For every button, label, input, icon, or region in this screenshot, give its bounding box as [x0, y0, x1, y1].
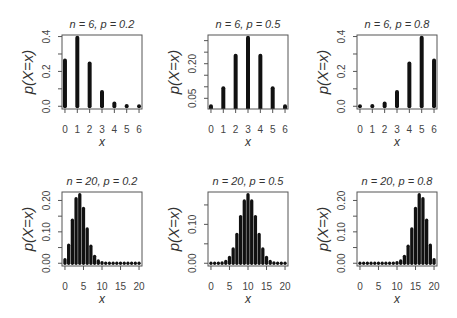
panel-title: n = 20, p = 0.2: [67, 175, 138, 187]
x-tick-label: 20: [428, 281, 440, 292]
y-tick-label: 0.4: [41, 29, 52, 43]
x-tick-label: 5: [227, 281, 233, 292]
x-tick-label: 10: [391, 281, 403, 292]
x-tick-label: 3: [394, 124, 400, 135]
x-axis-label: x: [393, 135, 401, 149]
axes: 051015200.000.10: [187, 205, 292, 292]
x-tick-label: 15: [261, 281, 273, 292]
panel-n20-p0.2: n = 20, p = 0.2 p(X=x) x 051015200.000.1…: [19, 175, 146, 306]
panel-n6-p0.8: n = 6, p = 0.8 p(X=x) x 01234560.00.20.4: [314, 18, 438, 149]
x-tick-label: 0: [208, 124, 214, 135]
x-tick-label: 1: [221, 124, 227, 135]
x-tick-label: 0: [357, 281, 363, 292]
y-tick-label: 0.00: [41, 253, 52, 273]
y-axis-label: p(X=x): [165, 50, 182, 96]
y-tick-label: 0.20: [336, 190, 347, 210]
x-tick-label: 4: [258, 124, 264, 135]
x-tick-label: 20: [279, 281, 291, 292]
bar-series: [360, 195, 434, 264]
x-tick-label: 10: [242, 281, 254, 292]
x-tick-label: 5: [419, 124, 425, 135]
y-tick-label: 0.10: [336, 222, 347, 242]
bar-series: [211, 195, 285, 264]
x-tick-label: 5: [81, 281, 87, 292]
x-tick-label: 20: [133, 281, 145, 292]
x-tick-label: 5: [270, 124, 276, 135]
x-tick-label: 5: [376, 281, 382, 292]
panel-n6-p0.2: n = 6, p = 0.2 p(X=x) x 01234560.00.20.4: [19, 18, 143, 149]
x-axis-label: x: [98, 292, 106, 306]
y-tick-label: 0.2: [336, 64, 347, 78]
binomial-figure: n = 6, p = 0.2 p(X=x) x 01234560.00.20.4…: [0, 0, 457, 318]
x-tick-label: 1: [75, 124, 81, 135]
axes: 051015200.000.100.20: [41, 190, 146, 292]
x-tick-label: 1: [370, 124, 376, 135]
x-tick-label: 2: [233, 124, 239, 135]
x-tick-label: 6: [282, 124, 288, 135]
y-tick-label: 0.05: [187, 88, 198, 108]
x-tick-label: 4: [112, 124, 118, 135]
panel-n6-p0.5: n = 6, p = 0.5 p(X=x) x 01234560.050.20: [165, 18, 289, 149]
y-axis-label: p(X=x): [314, 207, 331, 253]
x-axis-label: x: [244, 292, 252, 306]
bar-series: [65, 195, 139, 264]
panel-title: n = 20, p = 0.5: [213, 175, 285, 187]
y-tick-label: 0.20: [41, 190, 52, 210]
panel-n20-p0.8: n = 20, p = 0.8 p(X=x) x 051015200.000.1…: [314, 175, 441, 306]
y-tick-label: 0.0: [336, 99, 347, 113]
x-tick-label: 2: [87, 124, 93, 135]
x-tick-label: 0: [62, 124, 68, 135]
bar-series: [211, 38, 285, 110]
y-tick-label: 0.2: [41, 64, 52, 78]
bar-series: [360, 38, 434, 107]
x-axis-label: x: [244, 135, 252, 149]
x-tick-label: 3: [99, 124, 105, 135]
x-axis-label: x: [98, 135, 106, 149]
x-axis-label: x: [393, 292, 401, 306]
x-tick-label: 6: [431, 124, 437, 135]
x-tick-label: 5: [124, 124, 130, 135]
x-tick-label: 10: [96, 281, 108, 292]
x-tick-label: 15: [410, 281, 422, 292]
x-tick-label: 4: [407, 124, 413, 135]
y-axis-label: p(X=x): [165, 207, 182, 253]
x-tick-label: 6: [136, 124, 142, 135]
panel-n20-p0.5: n = 20, p = 0.5 p(X=x) x 051015200.000.1…: [165, 175, 292, 306]
panel-title: n = 6, p = 0.5: [216, 18, 282, 30]
panel-title: n = 6, p = 0.8: [365, 18, 431, 30]
y-tick-label: 0.10: [187, 214, 198, 234]
x-tick-label: 15: [115, 281, 127, 292]
y-tick-label: 0.00: [336, 253, 347, 273]
y-tick-label: 0.0: [41, 99, 52, 113]
x-tick-label: 0: [208, 281, 214, 292]
y-axis-label: p(X=x): [314, 50, 331, 96]
y-tick-label: 0.00: [187, 253, 198, 273]
y-tick-label: 0.4: [336, 29, 347, 43]
x-tick-label: 2: [382, 124, 388, 135]
y-tick-label: 0.10: [41, 222, 52, 242]
panel-title: n = 20, p = 0.8: [362, 175, 434, 187]
x-tick-label: 0: [357, 124, 363, 135]
y-tick-label: 0.20: [187, 54, 198, 74]
y-axis-label: p(X=x): [19, 50, 36, 96]
bar-series: [65, 38, 139, 107]
x-tick-label: 3: [245, 124, 251, 135]
x-tick-label: 0: [62, 281, 68, 292]
y-axis-label: p(X=x): [19, 207, 36, 253]
panel-title: n = 6, p = 0.2: [70, 18, 135, 30]
